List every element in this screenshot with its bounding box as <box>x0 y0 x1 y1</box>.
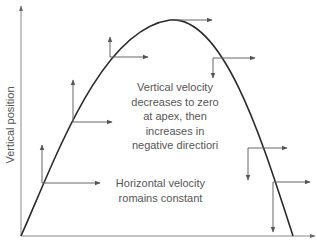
y-axis-label: Vertical position <box>3 75 17 175</box>
vertical-velocity-note: Vertical velocity decreases to zero at a… <box>115 80 235 153</box>
note-line: decreases to zero <box>115 95 235 110</box>
note-line: Horizontal velocity <box>98 176 223 191</box>
note-line: Vertical velocity <box>115 80 235 95</box>
horizontal-velocity-note: Horizontal velocity romains constant <box>98 176 223 205</box>
note-line: at apex, then <box>115 109 235 124</box>
note-line: increases in <box>115 124 235 139</box>
note-line: negative directiori <box>115 138 235 153</box>
note-line: romains constant <box>98 191 223 206</box>
